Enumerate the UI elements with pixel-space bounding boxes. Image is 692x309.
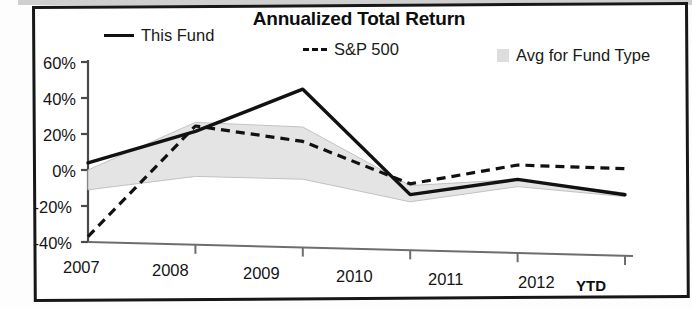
chart-container: Annualized Total Return This Fund S&P 50… <box>0 0 692 309</box>
chart-svg <box>0 0 692 309</box>
chart-screenshot: Annualized Total Return This Fund S&P 50… <box>0 0 692 309</box>
x-axis-line <box>88 242 633 256</box>
plot-area: 60% 40% 20% 0% -20% -40% 2007 2008 2009 … <box>0 0 692 309</box>
